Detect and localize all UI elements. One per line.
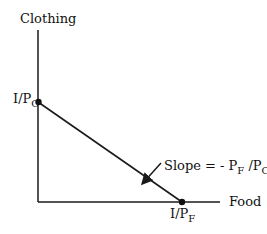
y-axis-label: Clothing xyxy=(20,11,76,26)
budget-line xyxy=(38,102,182,202)
budget-line-diagram: Clothing Food I/PC I/PF Slope = - PF /PC xyxy=(0,0,267,234)
slope-annotation: Slope = - PF /PC xyxy=(164,158,267,176)
x-intercept-dot xyxy=(179,199,185,205)
x-axis-label: Food xyxy=(229,194,261,209)
y-intercept-label: I/PC xyxy=(13,91,39,109)
diagram-canvas: Clothing Food I/PC I/PF Slope = - PF /PC xyxy=(0,0,267,234)
x-intercept-label: I/PF xyxy=(170,206,195,224)
slope-arrow xyxy=(143,163,161,183)
